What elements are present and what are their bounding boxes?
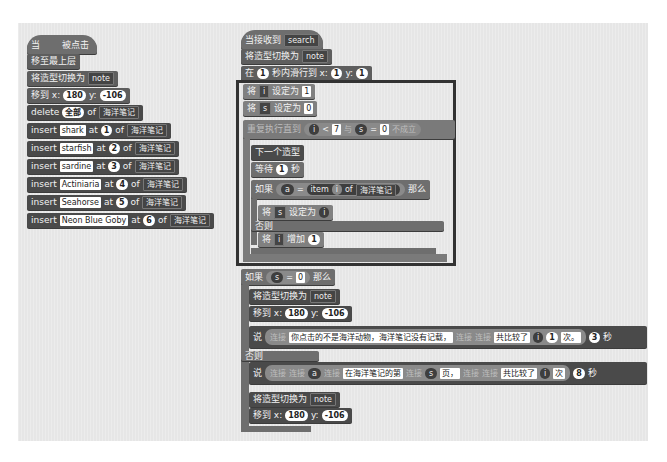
variable-reporter[interactable]: i <box>319 207 329 218</box>
text-input[interactable]: 共比较了 <box>494 332 530 343</box>
say-for-secs-block[interactable]: 说 连接 你点击的不是海洋动物，海洋笔记没有记载， 连接 连接 共比较了 i 1… <box>249 326 647 348</box>
next-costume-block[interactable]: 下一个造型 <box>251 145 304 160</box>
list-dropdown[interactable]: 海洋笔记 <box>170 214 210 227</box>
glide-block[interactable]: 在 1 秒内滑行到 x: 1 y: 1 <box>241 66 372 81</box>
item-input[interactable]: Actiniaria <box>60 179 102 190</box>
variable-reporter[interactable]: a <box>308 368 321 379</box>
value-input[interactable]: 0 <box>380 124 389 135</box>
list-dropdown[interactable]: 海洋笔记 <box>127 124 167 137</box>
list-dropdown[interactable]: 海洋笔记 <box>99 106 139 119</box>
item-of-list-reporter[interactable]: item i of 海洋笔记 <box>307 184 400 195</box>
repeat-until-block[interactable]: 重复执行直到 i < 7 与 s = 0 不成立 <box>243 120 455 139</box>
list-dropdown[interactable]: 海洋笔记 <box>135 160 175 173</box>
list-dropdown[interactable]: 海洋笔记 <box>142 196 182 209</box>
item-input[interactable]: sardine <box>60 161 94 172</box>
variable-reporter[interactable]: s <box>271 272 283 283</box>
change-variable-block[interactable]: 将 i 增加 1 <box>258 232 324 247</box>
insert-block[interactable]: insert sardine at 3 of 海洋笔记 <box>27 159 179 174</box>
index-dropdown[interactable]: 4 <box>116 179 128 190</box>
goto-xy-block[interactable]: 移到 x: 180 y: -106 <box>249 306 352 321</box>
and-condition[interactable]: i < 7 与 s = 0 不成立 <box>304 123 421 136</box>
equals-condition[interactable]: a = item i of 海洋笔记 <box>276 183 405 196</box>
value-input[interactable]: 7 <box>332 124 341 135</box>
secs-input[interactable]: 3 <box>589 332 601 343</box>
costume-dropdown[interactable]: note <box>88 72 114 85</box>
variable-dropdown[interactable]: s <box>259 102 271 115</box>
value-input[interactable]: 1 <box>302 86 311 97</box>
costume-dropdown[interactable]: note <box>310 290 336 303</box>
item-input[interactable]: shark <box>60 125 86 136</box>
set-variable-block[interactable]: 将 s 设定为 i <box>258 205 333 220</box>
x-input[interactable]: 180 <box>285 308 308 319</box>
variable-reporter[interactable]: a <box>281 184 294 195</box>
text-input[interactable]: 页， <box>440 368 460 379</box>
list-dropdown[interactable]: 海洋笔记 <box>356 184 396 197</box>
if-else-block[interactable]: 如果 s = 0 那么 <box>241 269 335 285</box>
value-input[interactable]: 0 <box>296 272 305 283</box>
index-dropdown[interactable]: 5 <box>116 197 128 208</box>
insert-block[interactable]: insert Actiniaria at 4 of 海洋笔记 <box>27 177 187 192</box>
go-to-front-block[interactable]: 移至最上层 <box>27 54 80 69</box>
variable-dropdown[interactable]: i <box>274 233 284 246</box>
y-input[interactable]: -106 <box>100 90 126 101</box>
item-input[interactable]: Seahorse <box>60 197 101 208</box>
value-input[interactable]: 0 <box>304 103 313 114</box>
item-input[interactable]: starfish <box>60 143 94 154</box>
insert-block[interactable]: insert starfish at 2 of 海洋笔记 <box>27 141 179 156</box>
say-for-secs-block[interactable]: 说 连接 连接 a 连接 在海洋笔记的第 连接 s 页， 连接 连接 共比较了 … <box>249 362 647 384</box>
variable-reporter[interactable]: i <box>309 124 319 135</box>
text-input[interactable]: 次 <box>553 368 565 379</box>
join-reporter[interactable]: 连接 连接 a 连接 在海洋笔记的第 连接 s 页， 连接 连接 共比较了 i … <box>265 365 570 381</box>
variable-reporter[interactable]: i <box>332 184 342 195</box>
text-input[interactable]: 在海洋笔记的第 <box>343 368 403 379</box>
when-receive-hat[interactable]: 当接收到 search <box>241 30 323 49</box>
switch-costume-block[interactable]: 将造型切换为 note <box>27 71 118 86</box>
goto-xy-block[interactable]: 移到 x: 180 y: -106 <box>27 88 130 103</box>
list-dropdown[interactable]: 海洋笔记 <box>143 178 183 191</box>
x-input[interactable]: 180 <box>63 90 86 101</box>
variable-reporter[interactable]: i <box>540 368 550 379</box>
number-input[interactable]: 1 <box>546 332 558 343</box>
secs-input[interactable]: 1 <box>257 68 269 79</box>
index-dropdown[interactable]: 2 <box>109 143 121 154</box>
insert-block[interactable]: insert Neon Blue Goby at 6 of 海洋笔记 <box>27 213 214 228</box>
y-input[interactable]: -106 <box>322 410 348 421</box>
equals-condition[interactable]: s = 0 <box>266 271 310 284</box>
secs-input[interactable]: 8 <box>573 368 585 379</box>
insert-block[interactable]: insert Seahorse at 5 of 海洋笔记 <box>27 195 186 210</box>
index-dropdown[interactable]: 1 <box>101 125 113 136</box>
set-variable-block[interactable]: 将 i 设定为 1 <box>243 84 315 99</box>
switch-costume-block[interactable]: 将造型切换为 note <box>249 289 340 304</box>
variable-dropdown[interactable]: i <box>259 85 269 98</box>
costume-dropdown[interactable]: note <box>302 50 328 63</box>
variable-dropdown[interactable]: s <box>274 206 286 219</box>
join-reporter[interactable]: 连接 你点击的不是海洋动物，海洋笔记没有记载， 连接 连接 共比较了 i 1 次… <box>265 329 586 345</box>
variable-reporter[interactable]: s <box>425 368 437 379</box>
switch-costume-block[interactable]: 将造型切换为 note <box>241 49 332 64</box>
x-input[interactable]: 180 <box>285 410 308 421</box>
text-input[interactable]: 共比较了 <box>501 368 537 379</box>
index-dropdown[interactable]: 6 <box>143 215 155 226</box>
index-dropdown[interactable]: 全部 <box>62 107 84 118</box>
text-input[interactable]: 你点击的不是海洋动物，海洋笔记没有记载， <box>289 332 453 343</box>
variable-reporter[interactable]: s <box>355 124 367 135</box>
variable-reporter[interactable]: i <box>533 332 543 343</box>
index-dropdown[interactable]: 3 <box>108 161 120 172</box>
costume-dropdown[interactable]: note <box>310 393 336 406</box>
when-sprite-clicked-hat[interactable]: 当 被点击 <box>27 35 97 54</box>
item-input[interactable]: Neon Blue Goby <box>60 215 129 226</box>
secs-input[interactable]: 1 <box>276 164 288 175</box>
wait-block[interactable]: 等待 1 秒 <box>251 162 304 177</box>
y-input[interactable]: 1 <box>356 68 368 79</box>
x-input[interactable]: 1 <box>331 68 343 79</box>
set-variable-block[interactable]: 将 s 设定为 0 <box>243 101 317 116</box>
goto-xy-block[interactable]: 移到 x: 180 y: -106 <box>249 408 352 423</box>
if-else-block[interactable]: 如果 a = item i of 海洋笔记 那么 <box>251 180 430 199</box>
list-dropdown[interactable]: 海洋笔记 <box>135 142 175 155</box>
switch-costume-block[interactable]: 将造型切换为 note <box>249 392 340 407</box>
value-input[interactable]: 1 <box>308 234 320 245</box>
insert-block[interactable]: insert shark at 1 of 海洋笔记 <box>27 123 171 138</box>
y-input[interactable]: -106 <box>322 308 348 319</box>
message-dropdown[interactable]: search <box>284 34 319 47</box>
text-input[interactable]: 次。 <box>561 332 581 343</box>
